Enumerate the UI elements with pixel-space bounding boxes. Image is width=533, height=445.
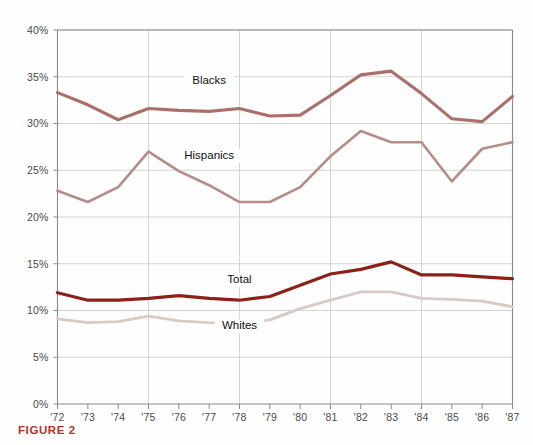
x-tick-label: '85: [445, 411, 459, 423]
y-tick-label: 35%: [27, 71, 49, 83]
x-tick-label: '82: [354, 411, 368, 423]
grid-layer: [58, 30, 513, 404]
x-tick-label: '73: [81, 411, 95, 423]
x-tick-label: '74: [111, 411, 125, 423]
series-label-hispanics: Hispanics: [184, 149, 234, 161]
figure-container: 0%5%10%15%20%25%30%35%40% '72'73'74'75'7…: [0, 0, 533, 445]
y-tick-label: 0%: [33, 398, 49, 410]
series-line-total: [58, 262, 513, 300]
line-chart: 0%5%10%15%20%25%30%35%40% '72'73'74'75'7…: [0, 0, 533, 445]
x-tick-label: '86: [475, 411, 489, 423]
y-tick-label: 15%: [27, 258, 49, 270]
series-line-whites: [58, 292, 513, 324]
figure-caption: FIGURE 2: [18, 424, 76, 436]
x-tick-label: '87: [505, 411, 519, 423]
y-tick-label: 30%: [27, 117, 49, 129]
x-tick-label: '76: [172, 411, 186, 423]
y-tick-label: 10%: [27, 304, 49, 316]
x-axis-tick-labels: '72'73'74'75'76'77'78'79'80'81'82'83'84'…: [50, 411, 519, 423]
series-label-total: Total: [227, 273, 251, 285]
x-tick-label: '77: [202, 411, 216, 423]
y-tick-label: 20%: [27, 211, 49, 223]
y-tick-label: 25%: [27, 164, 49, 176]
series-label-whites: Whites: [222, 319, 257, 331]
x-tick-label: '83: [384, 411, 398, 423]
series-line-hispanics: [58, 131, 513, 202]
x-tick-label: '72: [50, 411, 64, 423]
axis-layer: [54, 30, 513, 409]
series-layer: [58, 71, 513, 323]
x-tick-label: '80: [293, 411, 307, 423]
series-line-blacks: [58, 71, 513, 121]
series-annotations: BlacksHispanicsTotalWhites: [174, 74, 264, 333]
x-tick-label: '78: [232, 411, 246, 423]
y-tick-label: 40%: [27, 24, 49, 36]
x-tick-label: '75: [141, 411, 155, 423]
y-tick-label: 5%: [33, 351, 49, 363]
x-tick-label: '84: [414, 411, 428, 423]
x-tick-label: '81: [323, 411, 337, 423]
y-axis-tick-labels: 0%5%10%15%20%25%30%35%40%: [27, 24, 49, 410]
x-tick-label: '79: [263, 411, 277, 423]
series-label-blacks: Blacks: [192, 74, 226, 86]
